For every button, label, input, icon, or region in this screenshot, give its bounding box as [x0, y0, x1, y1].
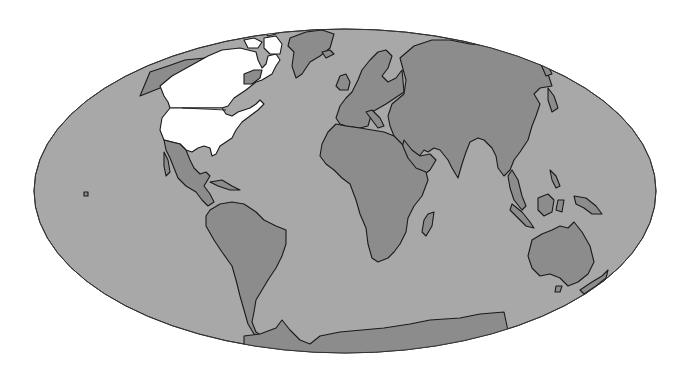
world-map — [0, 0, 689, 378]
region-sulawesi — [556, 200, 564, 212]
region-hawaii — [84, 192, 88, 196]
region-borneo — [538, 194, 554, 216]
world-map-svg — [0, 0, 689, 378]
